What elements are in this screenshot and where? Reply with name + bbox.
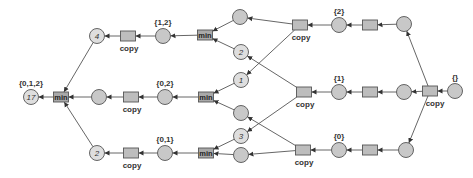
transition-copy [423, 86, 438, 96]
copy-label: copy [296, 100, 315, 109]
place-p_02 [158, 90, 173, 105]
transition-copy [124, 92, 139, 102]
place-p_2 [332, 18, 347, 33]
arc-p_r_top-to-t_r_top [378, 24, 397, 25]
place-p_mid_a [92, 90, 107, 105]
copy-label: copy [123, 161, 142, 170]
min-label: min [198, 31, 212, 40]
place-label: {1,2} [154, 18, 171, 27]
place-p_t_up [233, 10, 248, 25]
arc-p_bot2-to-t_min_out [64, 102, 93, 147]
copy-label: copy [295, 158, 314, 167]
transition-plain [363, 20, 378, 30]
place-marking: 3 [239, 132, 244, 141]
arc-t_c1-to-p_t_dn [247, 56, 296, 87]
place-p_r_top [397, 17, 412, 32]
transition-copy [124, 148, 139, 158]
copy-label: copy [120, 44, 139, 53]
min-label: min [54, 93, 68, 102]
transition-copy [297, 87, 312, 97]
place-marking: 2 [238, 48, 244, 57]
arc-p_top4-to-t_min_out [64, 42, 93, 92]
place-label: {0,2} [156, 79, 173, 88]
arc-t_c1-to-p_b_up [247, 97, 297, 132]
place-label: {0} [334, 132, 345, 141]
transition-copy [296, 145, 311, 155]
diagram-svg: 17{0,1,2}42{1,2}{0,2}{0,1}213{2}{1}{0}{}… [0, 0, 473, 178]
transition-plain [363, 145, 378, 155]
place-label: {1} [334, 74, 345, 83]
arc-t_c0-to-p_b_dn [248, 151, 295, 155]
arc-p_m_up-to-t_min_mid [214, 83, 235, 93]
place-label: {0,1,2} [19, 79, 43, 88]
transition-copy [121, 31, 136, 41]
transition-plain [363, 87, 378, 97]
arc-t_c0-to-p_m_dn [247, 117, 295, 146]
min-label: min [199, 149, 213, 158]
place-p_r_bot [399, 143, 414, 158]
place-p_in [448, 84, 463, 99]
copy-label: copy [292, 33, 311, 42]
place-p_1 [332, 85, 347, 100]
transition-copy [293, 20, 308, 30]
copy-label: copy [426, 99, 445, 108]
copy-label: copy [123, 105, 142, 114]
arc-t_c2-to-p_t_up [247, 18, 292, 24]
arc-t_in_copy-to-p_r_top [407, 31, 428, 86]
place-marking: 2 [94, 149, 100, 158]
place-p_12 [156, 29, 171, 44]
arc-p_b_dn-to-t_min_bot [214, 153, 234, 154]
place-marking: 4 [95, 32, 100, 41]
place-p_m_dn [234, 106, 249, 121]
place-p_01 [158, 146, 173, 161]
place-p_0 [332, 143, 347, 158]
nodes: 17{0,1,2}42{1,2}{0,2}{0,1}213{2}{1}{0}{}… [19, 7, 463, 170]
arc-p_b_up-to-t_min_bot [214, 139, 235, 149]
place-label: {2} [334, 7, 345, 16]
arc-t_min_top-to-p_12 [170, 35, 197, 36]
arc-t_c2-to-p_m_up [246, 30, 294, 75]
place-p_b_dn [234, 148, 249, 163]
place-label: {0,1} [156, 135, 173, 144]
arc-p_t_dn-to-t_min_top [213, 39, 235, 49]
place-p_r_mid [397, 85, 412, 100]
arc-p_t_up-to-t_min_top [213, 20, 234, 31]
petri-net-diagram: 17{0,1,2}42{1,2}{0,2}{0,1}213{2}{1}{0}{}… [0, 0, 473, 178]
place-marking: 17 [27, 93, 36, 102]
min-label: min [199, 93, 213, 102]
arc-p_m_dn-to-t_min_mid [214, 100, 235, 109]
place-label: {} [452, 73, 458, 82]
place-marking: 1 [239, 76, 243, 85]
